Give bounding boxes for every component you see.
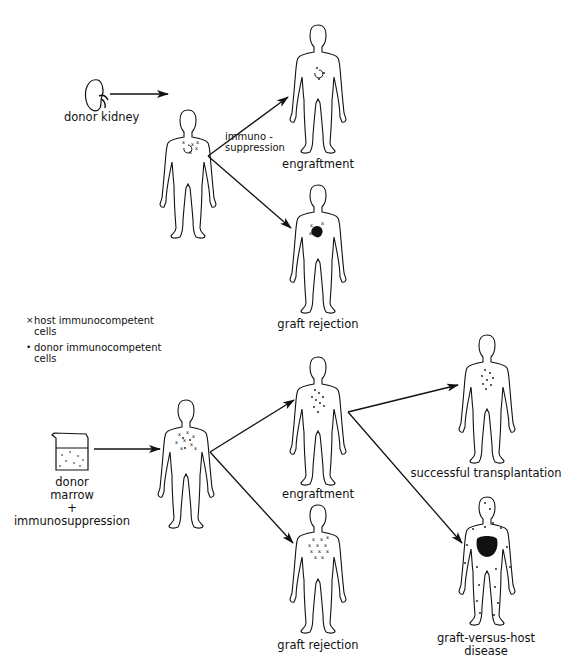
svg-text:x: x bbox=[194, 445, 197, 451]
legend-text: donor immunocompetent bbox=[34, 342, 161, 353]
svg-text:x: x bbox=[178, 431, 181, 437]
successful-transplantation-label: successful transplantation bbox=[410, 467, 561, 480]
svg-text:x: x bbox=[182, 139, 185, 145]
svg-text:x: x bbox=[192, 433, 195, 439]
svg-text:x: x bbox=[321, 220, 324, 226]
donor-marrow-label-4: immunosuppression bbox=[14, 515, 130, 528]
svg-text:x: x bbox=[190, 441, 193, 447]
svg-text:x: x bbox=[321, 554, 324, 560]
x-mark-icon: × bbox=[26, 315, 34, 337]
svg-text:x: x bbox=[186, 429, 189, 435]
svg-text:x: x bbox=[320, 536, 323, 542]
svg-text:x: x bbox=[310, 222, 313, 228]
rejection-figure-kidney: xxx bbox=[290, 185, 346, 313]
svg-text:x: x bbox=[312, 536, 315, 542]
legend: × host immunocompetentcells • donor immu… bbox=[26, 315, 161, 369]
legend-text-2: cells bbox=[34, 326, 56, 337]
gvhd-label-line2: disease bbox=[464, 645, 508, 658]
engraftment-label-kidney: engraftment bbox=[282, 158, 354, 171]
graft-rejection-label-marrow: graft rejection bbox=[277, 639, 358, 652]
donor-kidney-label: donor kidney bbox=[64, 111, 139, 124]
rejection-figure-marrow: xxx xxx xxx xx bbox=[290, 505, 346, 633]
legend-text: host immunocompetent bbox=[34, 315, 154, 326]
beaker-icon bbox=[52, 433, 88, 470]
dot-icon: • bbox=[26, 342, 34, 364]
engraftment-figure-kidney bbox=[290, 25, 346, 153]
engraftment-label-marrow: engraftment bbox=[282, 488, 354, 501]
svg-text:x: x bbox=[195, 145, 198, 151]
kidney-icon bbox=[86, 80, 109, 111]
svg-text:x: x bbox=[180, 445, 183, 451]
gvhd-figure bbox=[459, 497, 515, 625]
svg-text:x: x bbox=[326, 534, 329, 540]
svg-text:x: x bbox=[326, 548, 329, 554]
svg-text:x: x bbox=[309, 230, 312, 236]
recipient-figure-kidney: xx xxx bbox=[160, 110, 216, 238]
recipient-figure-marrow: xxx xxx xx bbox=[158, 400, 214, 528]
svg-text:x: x bbox=[189, 149, 192, 155]
svg-text:x: x bbox=[314, 554, 317, 560]
svg-text:x: x bbox=[310, 548, 313, 554]
immunosuppression-label-line2: suppression bbox=[225, 142, 285, 153]
engraftment-figure-marrow bbox=[290, 357, 346, 485]
svg-text:x: x bbox=[175, 439, 178, 445]
svg-text:x: x bbox=[191, 141, 194, 147]
successful-figure bbox=[459, 335, 515, 463]
legend-item-host: × host immunocompetentcells bbox=[26, 315, 161, 337]
graft-rejection-label-kidney: graft rejection bbox=[277, 318, 358, 331]
legend-item-donor: • donor immunocompetentcells bbox=[26, 342, 161, 364]
legend-text-2: cells bbox=[34, 353, 56, 364]
immunosuppression-label-line1: immuno - bbox=[225, 131, 273, 142]
